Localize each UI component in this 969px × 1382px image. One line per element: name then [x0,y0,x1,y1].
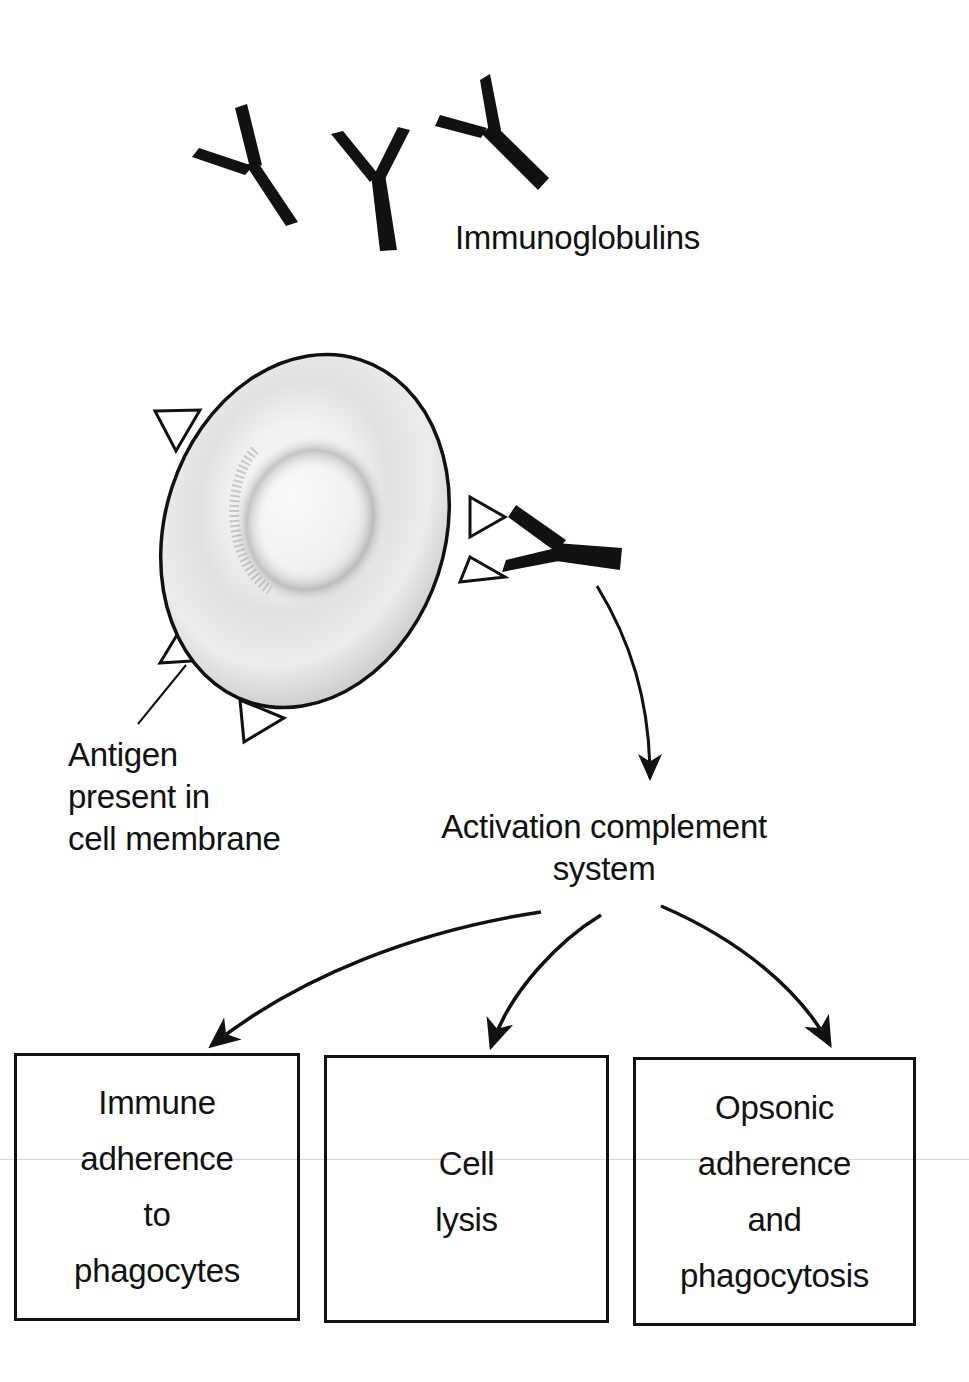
arrow-to-immune-adherence [211,912,541,1046]
activation-label-line-1: Activation complement [412,806,796,848]
immune-adherence-box: Immune adherence to phagocytes [14,1053,300,1321]
box-line: Immune [98,1075,215,1131]
antigen-pointer-line [138,665,186,724]
activation-arrow [597,586,650,778]
box-line: phagocytes [74,1243,240,1299]
arrow-to-opsonic-adherence [661,906,830,1045]
bound-immunoglobulin-icon [502,505,622,572]
box-line: to [144,1187,171,1243]
box-line: Cell [439,1136,495,1192]
antigen-label-line-2: present in [68,776,281,818]
activation-label-line-2: system [412,848,796,890]
antigen-label-line-1: Antigen [68,734,281,776]
box-line: adherence [80,1131,233,1187]
immunoglobulin-icon-3 [435,74,549,190]
immunoglobulin-icon-1 [192,104,298,226]
immunoglobulin-icon-2 [331,127,410,251]
immunoglobulins-label: Immunoglobulins [455,217,700,259]
cell-lysis-box: Cell lysis [324,1055,609,1323]
box-line: Opsonic [715,1080,834,1136]
box-line: lysis [435,1192,498,1248]
opsonic-adherence-box: Opsonic adherence and phagocytosis [633,1057,916,1326]
antigen-label-line-3: cell membrane [68,818,281,860]
box-line: and [747,1192,801,1248]
arrow-to-cell-lysis [491,915,601,1047]
antigen-label: Antigen present in cell membrane [68,734,281,860]
activation-label: Activation complement system [412,806,796,890]
box-line: phagocytosis [680,1248,869,1304]
box-line: adherence [698,1136,851,1192]
